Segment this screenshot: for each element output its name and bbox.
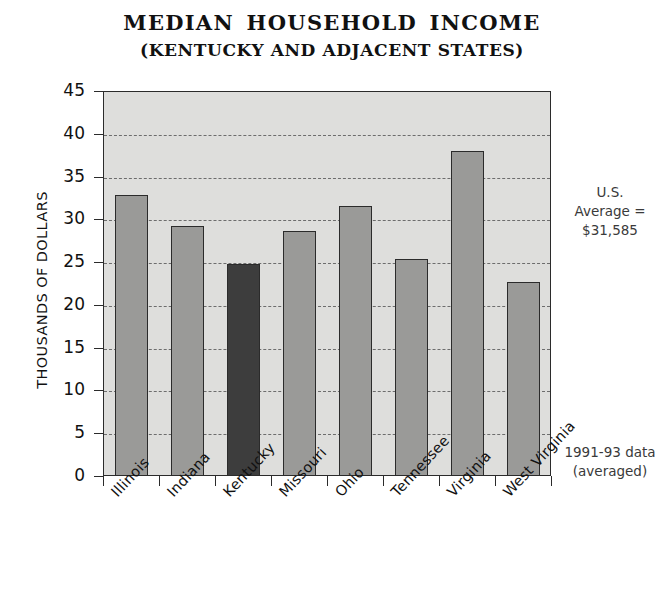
us-average-annotation: U.S. Average = $31,585	[562, 183, 658, 240]
y-tick-mark	[94, 476, 103, 477]
y-tick-label: 0	[39, 467, 85, 484]
y-tick-label: 10	[39, 381, 85, 398]
x-tick-mark	[103, 476, 104, 486]
us-average-line-1: U.S.	[562, 183, 658, 202]
data-period-line-1: 1991-93 data	[558, 443, 662, 462]
us-average-line-2: Average =	[562, 202, 658, 221]
gridline	[104, 306, 550, 307]
y-tick-label: 40	[39, 125, 85, 142]
gridline	[104, 135, 550, 136]
y-tick-mark	[94, 433, 103, 434]
x-tick-mark	[327, 476, 328, 486]
gridline	[104, 220, 550, 221]
y-tick-mark	[94, 348, 103, 349]
gridline	[104, 178, 550, 179]
us-average-line-3: $31,585	[562, 221, 658, 240]
x-tick-mark	[439, 476, 440, 486]
chart-title: MEDIAN HOUSEHOLD INCOME	[0, 10, 664, 35]
y-tick-mark	[94, 219, 103, 220]
x-tick-mark	[551, 476, 552, 486]
y-tick-label: 15	[39, 339, 85, 356]
chart-subtitle: (KENTUCKY AND ADJACENT STATES)	[0, 40, 664, 60]
y-tick-mark	[94, 91, 103, 92]
y-tick-mark	[94, 177, 103, 178]
y-tick-label: 45	[39, 82, 85, 99]
y-tick-mark	[94, 305, 103, 306]
y-tick-mark	[94, 390, 103, 391]
plot-area	[103, 91, 551, 476]
data-period-line-2: (averaged)	[558, 462, 662, 481]
gridline	[104, 391, 550, 392]
y-tick-label: 35	[39, 168, 85, 185]
y-tick-label: 30	[39, 210, 85, 227]
x-tick-mark	[159, 476, 160, 486]
x-tick-mark	[271, 476, 272, 486]
data-period-annotation: 1991-93 data (averaged)	[558, 443, 662, 481]
gridline	[104, 263, 550, 264]
y-tick-mark	[94, 262, 103, 263]
y-tick-label: 5	[39, 424, 85, 441]
gridline	[104, 434, 550, 435]
x-tick-mark	[215, 476, 216, 486]
x-tick-mark	[383, 476, 384, 486]
gridline	[104, 349, 550, 350]
y-tick-label: 25	[39, 253, 85, 270]
x-tick-mark	[495, 476, 496, 486]
y-tick-label: 20	[39, 296, 85, 313]
y-tick-mark	[94, 134, 103, 135]
